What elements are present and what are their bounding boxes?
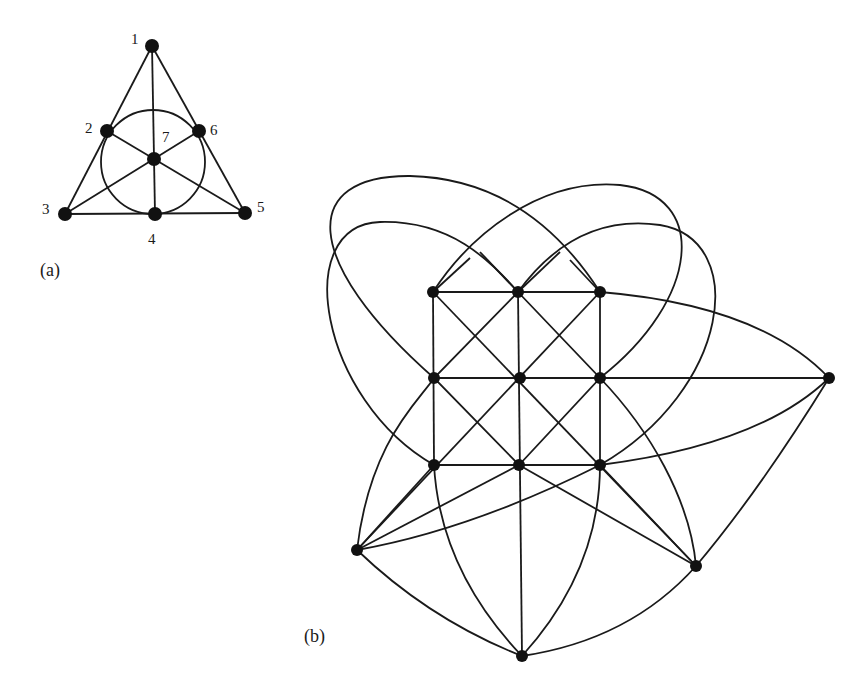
fano-label-1: 1 xyxy=(131,31,139,47)
fano-node-6 xyxy=(192,124,206,138)
loop-edge xyxy=(433,184,682,378)
graph-node-bottom-left xyxy=(351,544,363,556)
fano-label-3: 3 xyxy=(42,201,50,217)
curve-edge xyxy=(519,465,696,566)
graph-node-g33 xyxy=(594,459,606,471)
fano-plane-diagram: 1 2 3 4 5 6 7 (a) xyxy=(40,31,265,281)
fano-node-5 xyxy=(238,206,252,220)
grid-edge xyxy=(433,258,470,292)
fano-label-5: 5 xyxy=(257,199,265,215)
graph-node-g32 xyxy=(513,459,525,471)
caption-b: (b) xyxy=(304,626,325,647)
curve-edge xyxy=(522,566,696,656)
curve-edge xyxy=(522,465,600,656)
graph-node-g13 xyxy=(594,286,606,298)
curve-edge xyxy=(600,465,696,566)
fano-node-1 xyxy=(145,39,159,53)
loop-edge xyxy=(357,378,434,550)
grid-edge xyxy=(357,292,600,550)
graph-node-right xyxy=(823,372,835,384)
loop-edge xyxy=(518,223,715,465)
fano-node-4 xyxy=(148,207,162,221)
graph-node-g31 xyxy=(428,459,440,471)
figure-canvas: 1 2 3 4 5 6 7 (a) xyxy=(0,0,861,690)
graph-node-bottom-right xyxy=(690,560,702,572)
fano-node-7 xyxy=(147,152,161,166)
fano-label-7: 7 xyxy=(162,129,170,145)
fano-line-1-7-4 xyxy=(152,46,155,214)
fano-label-6: 6 xyxy=(210,122,218,138)
grid-edge xyxy=(518,292,522,656)
graph-node-g11 xyxy=(427,286,439,298)
caption-a: (a) xyxy=(40,260,60,281)
graph-node-g23 xyxy=(594,372,606,384)
grid-edge xyxy=(518,252,560,292)
fano-node-2 xyxy=(100,124,114,138)
fano-label-4: 4 xyxy=(148,231,156,247)
fano-line-2-7-5 xyxy=(107,131,245,213)
fano-line-3-7-6 xyxy=(65,131,199,214)
graph-node-g21 xyxy=(428,372,440,384)
graph-b-diagram: (b) xyxy=(304,176,835,662)
fano-node-3 xyxy=(58,207,72,221)
curve-edge xyxy=(357,465,434,550)
graph-node-g12 xyxy=(512,286,524,298)
fano-label-2: 2 xyxy=(85,120,93,136)
curve-edge xyxy=(357,550,522,656)
curve-edge xyxy=(696,378,829,566)
graph-node-bottom xyxy=(516,650,528,662)
loop-edge xyxy=(327,222,518,465)
curve-edge xyxy=(434,465,522,656)
curve-edge xyxy=(600,378,829,465)
grid-edge xyxy=(570,260,600,292)
loop-edge xyxy=(330,176,600,378)
curve-edge xyxy=(357,465,600,550)
graph-node-g22 xyxy=(514,372,526,384)
curve-edge xyxy=(357,465,519,550)
